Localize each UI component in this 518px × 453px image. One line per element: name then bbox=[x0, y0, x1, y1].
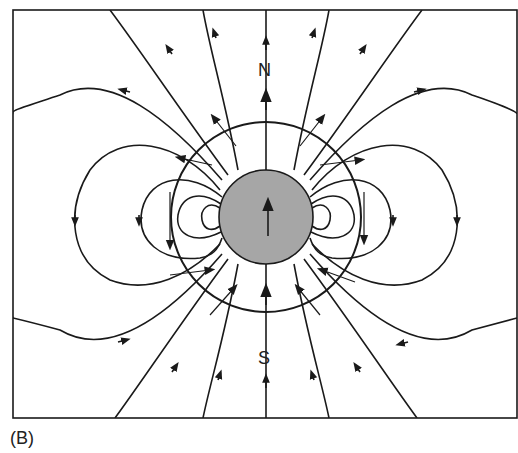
south-pole-label: S bbox=[258, 348, 270, 369]
magnetized-sphere bbox=[219, 170, 313, 264]
panel-label: (B) bbox=[10, 428, 34, 449]
north-pole-label: N bbox=[258, 60, 271, 81]
